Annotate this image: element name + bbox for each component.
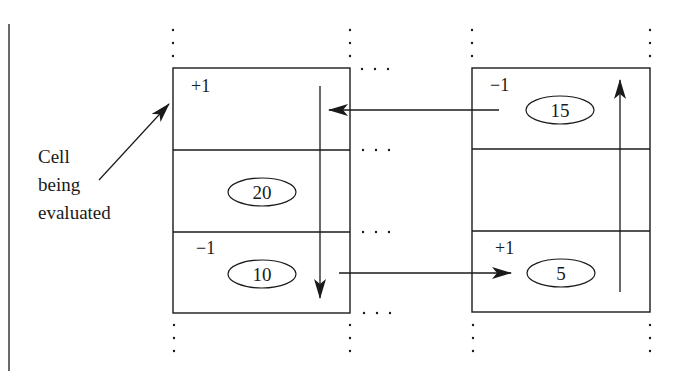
continuation-dots-top — [172, 29, 651, 57]
right-cell-3-value: 5 — [556, 263, 566, 284]
right-cell-3-sign: +1 — [495, 238, 514, 258]
right-cell-1-value: 15 — [551, 100, 570, 121]
callout-line-2: being — [38, 174, 81, 195]
continuation-dots-middle — [361, 68, 391, 314]
continuation-dots-bottom — [173, 324, 651, 352]
left-cell-2-value: 20 — [253, 182, 272, 203]
callout-line-1: Cell — [38, 146, 70, 167]
left-cell-3-sign: −1 — [196, 238, 215, 258]
callout-line-3: evaluated — [38, 202, 111, 223]
left-cell-3-value: 10 — [253, 264, 272, 285]
diagram-canvas: Cell being evaluated +1 20 −1 10 −1 15 +… — [0, 0, 682, 371]
left-cell-1-sign: +1 — [191, 76, 210, 96]
callout-arrow-icon — [99, 104, 169, 180]
right-cell-1-sign: −1 — [490, 75, 509, 95]
